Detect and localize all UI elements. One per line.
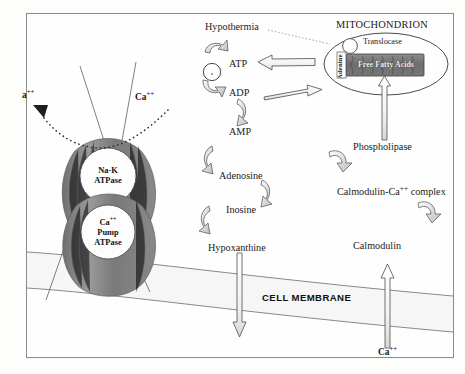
calmodulin-complex-charge: ++ xyxy=(400,184,408,193)
sodium-efflux-label: a++ xyxy=(22,88,34,101)
ca-pump-atpase-line1: Ca++ xyxy=(82,216,134,228)
cell-membrane-label: CELL MEMBRANE xyxy=(262,293,351,303)
figure-canvas: Hypothermia MITOCHONDRION Translocase Ad… xyxy=(0,0,465,374)
calcium-influx-bottom-symbol: Ca xyxy=(378,347,389,357)
calcium-influx-bottom-charge: ++ xyxy=(389,345,397,352)
cascade-step-adp: ADP xyxy=(229,88,249,99)
cascade-step-hypoxanthine: Hypoxanthine xyxy=(208,243,266,254)
ca-pump-atpase-label: Ca++ Pump ATPase xyxy=(82,216,134,248)
sodium-efflux-charge: ++ xyxy=(27,88,35,95)
ca-pump-atpase-line3: ATPase xyxy=(82,238,134,248)
free-fatty-acid-influx-arrow xyxy=(379,76,391,140)
calmodulin-label: Calmodulin xyxy=(353,241,401,252)
cascade-step-adenosine: Adenosine xyxy=(219,171,263,182)
adenosine-nucleotide-circle xyxy=(203,63,220,80)
calmodulin-curved-arrow xyxy=(418,202,441,223)
phospholipase-curved-arrow xyxy=(329,151,352,172)
ca-pump-symbol: Ca xyxy=(99,218,109,227)
adp-import-arrow xyxy=(264,85,322,100)
calcium-influx-bottom-label: Ca++ xyxy=(378,345,397,358)
mitochondrion-title: MITOCHONDRION xyxy=(336,20,428,31)
translocase-circle xyxy=(343,39,358,54)
na-k-atpase-line2: ATPase xyxy=(82,176,134,186)
hypothermia-label: Hypothermia xyxy=(205,22,259,33)
free-fatty-acids-label: Free Fatty Acids xyxy=(350,61,422,69)
cascade-step-atp: ATP xyxy=(229,59,247,70)
calcium-influx-top-label: Ca++ xyxy=(135,90,154,103)
cascade-step-amp: AMP xyxy=(229,127,251,138)
ca-pump-charge: ++ xyxy=(110,216,117,222)
calmodulin-complex-label: Calmodulin-Ca++ complex xyxy=(337,185,446,198)
phospholipase-label: Phospholipase xyxy=(353,142,412,153)
adenine-label: Adenine xyxy=(337,53,344,79)
na-k-atpase-line1: Na-K xyxy=(82,166,134,176)
calmodulin-complex-suffix: complex xyxy=(408,186,446,197)
na-k-atpase-label: Na-K ATPase xyxy=(82,166,134,186)
atp-export-arrow xyxy=(258,55,315,70)
calcium-influx-top-charge: ++ xyxy=(146,90,154,97)
translocase-label: Translocase xyxy=(363,38,402,47)
hypothermia-connector xyxy=(268,30,330,44)
cascade-step-inosine: Inosine xyxy=(226,205,256,216)
calmodulin-complex-base: Calmodulin-Ca xyxy=(337,186,400,197)
calcium-influx-top-symbol: Ca xyxy=(135,92,146,102)
ca-pump-atpase-line2: Pump xyxy=(82,228,134,238)
